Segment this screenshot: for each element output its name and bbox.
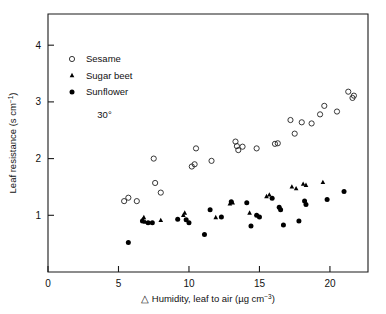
chart-legend: SesameSugar beetSunflower <box>69 53 132 97</box>
y-tick-label: 1 <box>35 210 41 221</box>
scatter-chart-figure: 1234 05101520 Leaf resistance (s cm−1) △… <box>0 0 386 314</box>
series-sunflower <box>126 189 347 245</box>
legend-label-sunflower: Sunflower <box>86 86 128 97</box>
data-point-open-circle <box>209 158 214 163</box>
data-point-filled-circle <box>208 207 213 212</box>
data-point-filled-circle <box>342 189 347 194</box>
data-point-open-circle <box>240 144 245 149</box>
data-point-open-circle <box>69 56 74 61</box>
data-point-filled-circle <box>140 218 145 223</box>
data-point-filled-circle <box>70 90 75 95</box>
data-series-layer <box>122 89 357 245</box>
x-tick-label: 20 <box>324 278 336 289</box>
data-point-filled-circle <box>325 197 330 202</box>
x-axis-title: △ Humidity, leaf to air (µg cm−3) <box>141 293 275 305</box>
data-point-filled-circle <box>219 214 224 219</box>
data-point-filled-circle <box>126 240 131 245</box>
data-point-open-circle <box>254 146 259 151</box>
data-point-open-circle <box>292 131 297 136</box>
data-point-filled-triangle <box>321 180 326 184</box>
data-point-open-circle <box>346 89 351 94</box>
data-point-open-circle <box>334 109 339 114</box>
y-tick-label: 3 <box>35 96 41 107</box>
y-axis-ticks <box>48 45 54 215</box>
chart-canvas: 1234 05101520 Leaf resistance (s cm−1) △… <box>0 0 386 314</box>
data-point-filled-triangle <box>213 215 218 219</box>
data-point-open-circle <box>126 195 131 200</box>
data-point-filled-triangle <box>267 192 272 196</box>
x-tick-label: 10 <box>183 278 195 289</box>
data-point-open-circle <box>153 180 158 185</box>
y-axis-tick-labels: 1234 <box>35 40 41 221</box>
data-point-filled-circle <box>244 200 249 205</box>
data-point-filled-circle <box>248 224 253 229</box>
x-tick-label: 0 <box>45 278 51 289</box>
data-point-filled-triangle <box>290 184 295 188</box>
data-point-filled-circle <box>257 214 262 219</box>
x-tick-label: 15 <box>254 278 266 289</box>
data-point-open-circle <box>317 112 322 117</box>
data-point-open-circle <box>193 146 198 151</box>
legend-label-sugar-beet: Sugar beet <box>86 70 133 81</box>
data-point-open-circle <box>299 120 304 125</box>
data-point-filled-circle <box>278 207 283 212</box>
data-point-open-circle <box>134 199 139 204</box>
y-tick-label: 2 <box>35 153 41 164</box>
data-point-open-circle <box>158 190 163 195</box>
data-point-filled-circle <box>229 199 234 204</box>
x-axis-tick-labels: 05101520 <box>45 278 336 289</box>
y-tick-label: 4 <box>35 40 41 51</box>
series-sesame <box>122 89 357 204</box>
x-tick-label: 5 <box>116 278 122 289</box>
x-axis-title-tail: ) <box>272 293 275 304</box>
data-point-open-circle <box>151 156 156 161</box>
data-point-open-circle <box>288 117 293 122</box>
data-point-filled-circle <box>296 218 301 223</box>
data-point-filled-triangle <box>158 218 163 222</box>
x-axis-title-main: △ Humidity, leaf to air (µg cm <box>141 293 264 304</box>
data-point-open-circle <box>322 103 327 108</box>
data-point-filled-circle <box>202 232 207 237</box>
annotation-temperature: 30° <box>97 109 112 120</box>
data-point-filled-triangle <box>182 210 187 214</box>
data-point-filled-circle <box>150 220 155 225</box>
y-axis-title: Leaf resistance (s cm−1) <box>7 93 19 194</box>
chart-annotations: 30° <box>97 109 112 120</box>
legend-label-sesame: Sesame <box>86 53 121 64</box>
y-axis-title-tail: ) <box>7 93 18 96</box>
data-point-filled-circle <box>270 196 275 201</box>
data-point-filled-circle <box>303 202 308 207</box>
data-point-filled-circle <box>281 222 286 227</box>
data-point-filled-triangle <box>294 186 299 190</box>
y-axis-title-main: Leaf resistance (s cm <box>7 103 18 193</box>
data-point-filled-circle <box>175 217 180 222</box>
data-point-filled-triangle <box>70 73 75 77</box>
x-axis-ticks <box>48 266 330 272</box>
data-point-open-circle <box>309 121 314 126</box>
data-point-filled-triangle <box>247 210 252 214</box>
data-point-filled-circle <box>186 220 191 225</box>
